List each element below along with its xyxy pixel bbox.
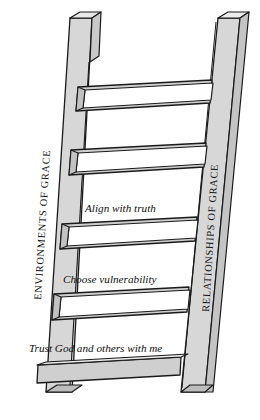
rung-2-caption: Align with truth bbox=[84, 202, 156, 214]
rung-3-caption: Choose vulnerability bbox=[63, 273, 157, 285]
rung-1 bbox=[76, 80, 213, 111]
ladder-illustration: ENVIRONMENTS OF GRACE RELATIONSHIPS OF G… bbox=[0, 0, 260, 420]
left-rail-top-side bbox=[90, 12, 101, 62]
left-rail-label: ENVIRONMENTS OF GRACE bbox=[32, 149, 52, 300]
rung-4-caption: Trust God and others with me bbox=[29, 342, 162, 354]
rung-2 bbox=[69, 143, 207, 175]
ladder-diagram: ENVIRONMENTS OF GRACE RELATIONSHIPS OF G… bbox=[0, 0, 260, 420]
